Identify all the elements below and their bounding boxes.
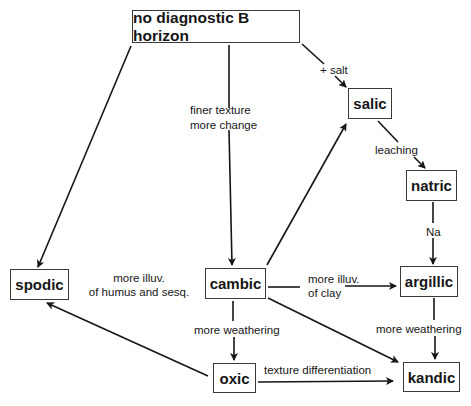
node-spodic: spodic [10,269,69,300]
label-illuv-clay-line1: more illuv. [308,272,360,286]
node-natric: natric [406,170,457,201]
edge-oxic-spodic [47,303,208,376]
node-kandic: kandic [403,362,460,392]
label-more-weathering-argillic: more weathering [376,322,462,336]
label-illuv-humus: more illuv. of humus and sesq. [84,271,194,299]
edge-cambic-salic [267,124,346,265]
label-texture-differentiation: texture differentiation [264,363,371,377]
label-finer-texture: finer texture [190,103,251,117]
edge-top-salic-upper [302,44,324,64]
edge-salic-natric-lower [414,157,425,168]
label-leaching: leaching [375,143,418,157]
node-argillic: argillic [400,266,458,297]
edge-top-cambic-lower [229,130,232,265]
edge-top-spodic [38,46,131,267]
edge-top-salic-lower [335,76,346,87]
node-cambic: cambic [205,268,266,299]
label-more-weathering-cambic: more weathering [194,323,280,337]
label-na: Na [426,225,441,239]
edge-salic-natric-upper [378,121,398,142]
label-illuv-humus-line2: of humus and sesq. [84,285,194,299]
node-salic: salic [348,88,392,119]
label-more-change: more change [190,118,257,132]
edge-oxic-kandic [258,381,393,382]
node-oxic: oxic [213,363,256,393]
diagram-edges [0,0,471,406]
label-illuv-humus-line1: more illuv. [84,271,194,285]
label-illuv-clay: more illuv. of clay [308,272,360,300]
label-plus-salt: + salt [320,63,348,77]
node-no-diagnostic-b-horizon: no diagnostic B horizon [132,10,300,43]
label-illuv-clay-line2: of clay [308,286,360,300]
